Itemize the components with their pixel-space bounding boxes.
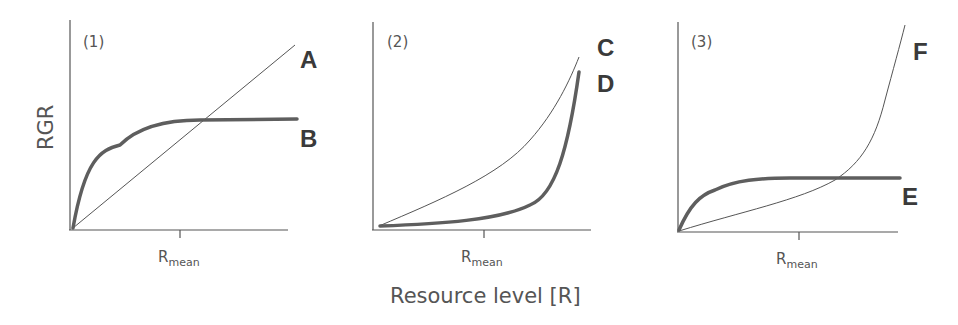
x-axis-title: Resource level [R] (390, 284, 581, 308)
panel-2: (2) C D Rmean (372, 22, 614, 269)
panel-id: (2) (387, 33, 408, 51)
curve-c (379, 57, 579, 226)
panel-id: (3) (691, 33, 712, 51)
curve-label-e: E (902, 183, 918, 210)
panel-1: (1) A B Rmean (69, 20, 317, 269)
curve-label-b: B (300, 125, 317, 152)
panel-3: (3) F E Rmean (677, 22, 928, 271)
curve-label-c: C (597, 34, 614, 61)
x-tick-label: Rmean (776, 250, 818, 271)
curve-a (73, 45, 295, 228)
figure-canvas: RGR (1) A B Rmean (2) C D Rmean (3) F E … (0, 0, 958, 325)
curve-label-f: F (913, 38, 928, 65)
curve-label-d: D (597, 70, 614, 97)
y-axis-title: RGR (34, 105, 58, 150)
curve-d (380, 72, 579, 226)
x-tick-label: Rmean (158, 248, 200, 269)
x-tick-label: Rmean (461, 248, 503, 269)
curve-label-a: A (300, 46, 317, 73)
curve-f (679, 25, 905, 231)
panel-id: (1) (83, 33, 104, 51)
curve-e (679, 178, 900, 230)
